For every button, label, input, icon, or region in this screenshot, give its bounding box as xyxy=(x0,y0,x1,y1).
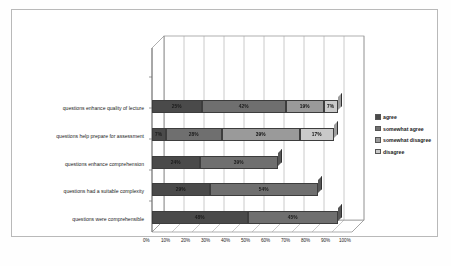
category-label-1: questions help prepare for assessment xyxy=(26,133,144,139)
xtick-label-9: 90% xyxy=(321,238,330,243)
bar-segment: 42% xyxy=(202,100,286,113)
bar-segment: 28% xyxy=(166,128,222,141)
legend-label-somewhat-agree: somewhat agree xyxy=(383,126,424,132)
category-label-4: questions were comprehensible xyxy=(26,216,144,222)
bar-value-label: 19% xyxy=(300,104,310,109)
bar-value-label: 7% xyxy=(155,132,162,137)
bar-segment: 7% xyxy=(324,100,338,113)
bar-value-label: 54% xyxy=(259,187,269,192)
bar-segment: 45% xyxy=(248,211,338,224)
xtick-label-4: 40% xyxy=(221,238,230,243)
legend-swatch-icon-disagree xyxy=(375,149,381,155)
xtick-label-7: 70% xyxy=(281,238,290,243)
bar-value-label: 24% xyxy=(171,160,181,165)
xtick-label-3: 30% xyxy=(201,238,210,243)
bar-value-label: 39% xyxy=(234,160,244,165)
category-label-2: questions enhance comprehension xyxy=(26,161,144,167)
bar-segment: 17% xyxy=(300,128,334,141)
xtick-label-1: 10% xyxy=(161,238,170,243)
xtick-label-2: 20% xyxy=(181,238,190,243)
legend-item-somewhat-agree: somewhat agree xyxy=(375,126,431,132)
bar-end-cap xyxy=(278,149,282,166)
bar-end-cap xyxy=(318,176,322,193)
bar-value-label: 42% xyxy=(239,104,249,109)
bar-segment: 19% xyxy=(286,100,324,113)
bar-segment: 48% xyxy=(152,211,248,224)
legend-item-disagree: disagree xyxy=(375,149,431,155)
bar-value-label: 28% xyxy=(189,132,199,137)
legend-swatch-icon-somewhat-agree xyxy=(375,126,381,132)
bar-value-label: 39% xyxy=(256,132,266,137)
bar-segment: 29% xyxy=(152,183,210,196)
chart-screenshot: 25%42%19%7%7%28%39%17%24%39%29%54%48%45%… xyxy=(0,0,451,266)
legend-item-agree: agree xyxy=(375,114,431,120)
chart-legend: agree somewhat agree somewhat disagree d… xyxy=(375,114,431,160)
bar-end-cap xyxy=(334,121,338,138)
xtick-label-5: 50% xyxy=(241,238,250,243)
bar-segment: 54% xyxy=(210,183,318,196)
chart-frame: 25%42%19%7%7%28%39%17%24%39%29%54%48%45%… xyxy=(11,9,438,237)
category-label-0: questions enhance quality of lecture xyxy=(26,105,144,111)
legend-swatch-icon-somewhat-disagree xyxy=(375,137,381,143)
xtick-label-0: 0% xyxy=(143,238,150,243)
legend-item-somewhat-disagree: somewhat disagree xyxy=(375,137,431,143)
bar-segment: 39% xyxy=(200,156,278,169)
bar-value-label: 48% xyxy=(195,215,205,220)
bar-value-label: 7% xyxy=(327,104,334,109)
bar-value-label: 25% xyxy=(172,104,182,109)
bar-end-cap xyxy=(338,204,342,221)
bar-segment: 25% xyxy=(152,100,202,113)
bar-value-label: 29% xyxy=(176,187,186,192)
bar-end-cap xyxy=(338,93,342,110)
legend-swatch-icon-agree xyxy=(375,114,381,120)
xtick-label-10: 100% xyxy=(339,238,351,243)
category-label-3: questions had a suitable complexity xyxy=(26,188,144,194)
bar-segment: 39% xyxy=(222,128,300,141)
legend-label-agree: agree xyxy=(383,114,397,120)
legend-label-somewhat-disagree: somewhat disagree xyxy=(383,137,431,143)
bar-value-label: 17% xyxy=(312,132,322,137)
xtick-label-8: 80% xyxy=(301,238,310,243)
bar-segment: 24% xyxy=(152,156,200,169)
legend-label-disagree: disagree xyxy=(383,149,404,155)
bar-segment: 7% xyxy=(152,128,166,141)
xtick-label-6: 60% xyxy=(261,238,270,243)
bar-value-label: 45% xyxy=(288,215,298,220)
